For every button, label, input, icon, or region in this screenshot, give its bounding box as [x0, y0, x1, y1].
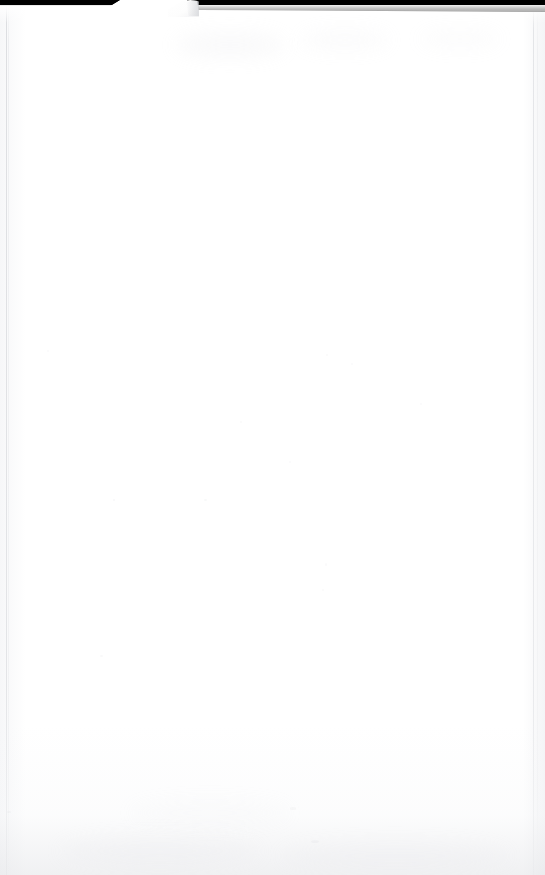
page-content-area [34, 44, 511, 831]
left-page-edge-line-inner [8, 0, 9, 875]
right-page-edge-line-outer [537, 0, 538, 875]
right-page-edge-line [533, 0, 534, 875]
paper-sheet [0, 0, 545, 875]
left-page-edge-line [6, 0, 7, 875]
scanned-page-frame [0, 0, 545, 875]
